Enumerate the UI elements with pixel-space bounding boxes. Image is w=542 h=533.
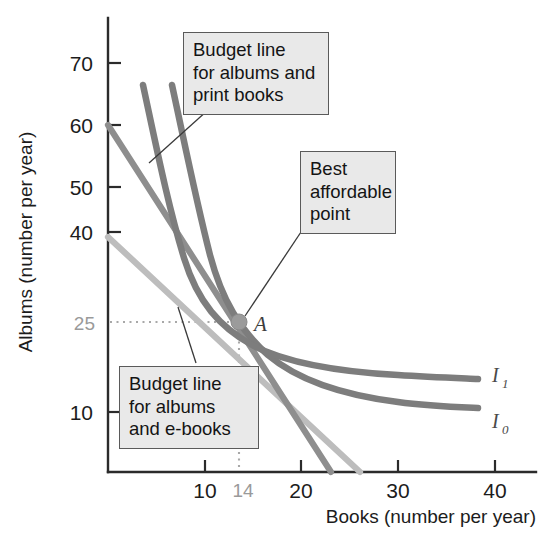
- x-tick-label-10: 10: [193, 479, 216, 502]
- callout-best-affordable-point: Best affordable point: [300, 151, 396, 234]
- y-tick-label-40: 40: [70, 221, 93, 244]
- leader-line-best-point: [245, 229, 303, 316]
- curve-label-I1-subscript: 1: [502, 376, 509, 391]
- indifference-curve-chart: 70 60 50 40 10 25 10 20 30 40 14 Albums …: [0, 0, 542, 533]
- y-tick-label-25-highlight: 25: [74, 313, 95, 334]
- x-tick-label-40: 40: [483, 479, 506, 502]
- y-tick-label-50: 50: [70, 176, 93, 199]
- x-tick-label-14-highlight: 14: [232, 480, 254, 501]
- x-tick-label-30: 30: [386, 479, 409, 502]
- x-tick-label-20: 20: [289, 479, 312, 502]
- callout-budget-line-print-books: Budget line for albums and print books: [183, 32, 329, 115]
- y-axis-title: Albums (number per year): [15, 132, 36, 353]
- best-affordable-point-label: A: [252, 312, 267, 336]
- callout-budget-line-e-books: Budget line for albums and e-books: [119, 366, 259, 449]
- best-affordable-point-marker[interactable]: [231, 314, 247, 330]
- y-tick-label-70: 70: [70, 52, 93, 75]
- y-tick-label-60: 60: [70, 114, 93, 137]
- y-tick-label-10: 10: [70, 401, 93, 424]
- curve-label-I0-subscript: 0: [502, 422, 509, 437]
- curve-label-I0: I: [491, 410, 500, 432]
- x-axis-title: Books (number per year): [326, 506, 536, 527]
- curve-label-I1: I: [491, 364, 500, 386]
- indifference-curve-I0: [172, 85, 478, 408]
